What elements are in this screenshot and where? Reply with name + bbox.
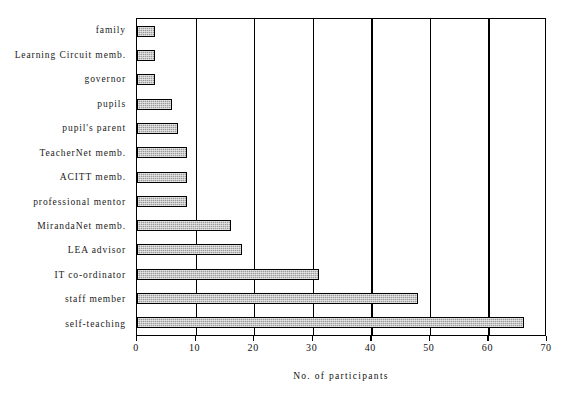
bars-layer [137,19,545,335]
bar-row [137,286,545,310]
category-label: pupils [0,91,132,115]
bar [137,220,231,231]
category-label: family [0,18,132,42]
bar [137,317,524,328]
bar-row [137,116,545,140]
x-tick-label: 0 [133,342,139,353]
category-label: LEA advisor [0,238,132,262]
x-tick-mark [429,336,430,341]
bar [137,269,319,280]
x-tick-label: 30 [306,342,317,353]
category-label: pupil's parent [0,116,132,140]
x-axis: 010203040506070 [136,336,546,358]
x-tick-label: 40 [365,342,376,353]
category-label: professional mentor [0,189,132,213]
category-label: staff member [0,287,132,311]
x-tick-mark [195,336,196,341]
x-tick-mark [312,336,313,341]
plot-area [136,18,546,336]
category-label: MirandaNet memb. [0,214,132,238]
x-tick-label: 50 [423,342,434,353]
x-tick-mark [546,336,547,341]
x-tick-mark [487,336,488,341]
bar-row [137,19,545,43]
bar [137,293,418,304]
x-tick-label: 60 [482,342,493,353]
x-tick-label: 20 [248,342,259,353]
bar-row [137,189,545,213]
category-label: IT co-ordinator [0,263,132,287]
bar [137,99,172,110]
bar [137,123,178,134]
category-label: ACITT memb. [0,165,132,189]
bar-row [137,43,545,67]
bar-row [137,262,545,286]
bar-row [137,68,545,92]
x-tick-mark [136,336,137,341]
x-tick-mark [370,336,371,341]
bar [137,147,187,158]
bar-row [137,238,545,262]
bar-row [137,311,545,335]
x-tick-mark [253,336,254,341]
bar-chart: family Learning Circuit memb. governor p… [0,0,571,414]
bar-row [137,165,545,189]
bar [137,196,187,207]
bar [137,26,155,37]
bar-row [137,92,545,116]
bar-row [137,141,545,165]
bar [137,74,155,85]
category-label: governor [0,67,132,91]
bar [137,50,155,61]
bar-row [137,214,545,238]
category-label: Learning Circuit memb. [0,42,132,66]
category-label: TeacherNet memb. [0,140,132,164]
category-label: self-teaching [0,312,132,336]
bar [137,172,187,183]
y-axis-category-labels: family Learning Circuit memb. governor p… [0,18,132,336]
x-axis-title: No. of participants [136,371,546,381]
bar [137,244,242,255]
x-tick-label: 70 [540,342,551,353]
x-tick-label: 10 [189,342,200,353]
